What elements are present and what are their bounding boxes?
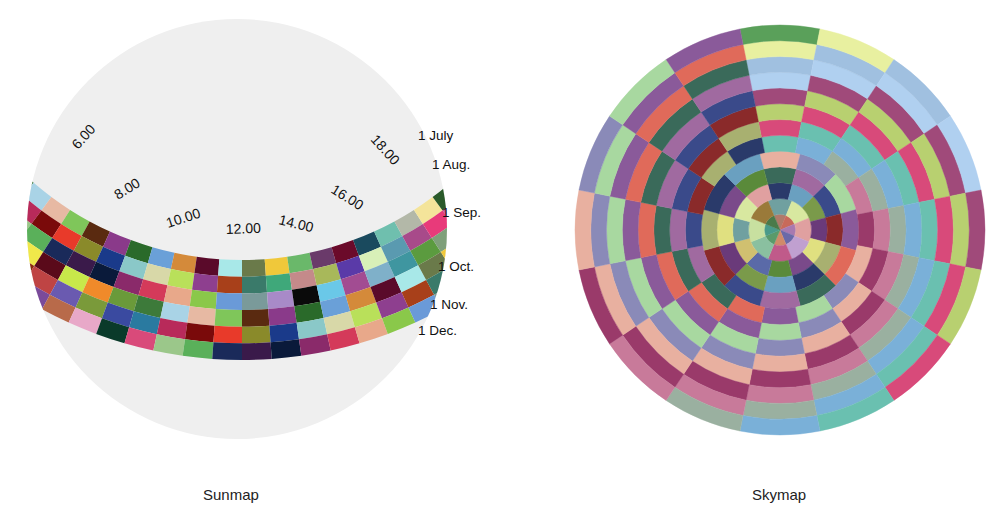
skymap-cell: [755, 338, 804, 356]
skymap-cell: [762, 307, 799, 324]
skymap-cell: [717, 214, 734, 247]
skymap-cell: [755, 104, 804, 122]
sunmap-panel: 6.008.0010.0012.0014.0016.0018.00 1 July…: [0, 0, 500, 517]
sunmap-cell: [0, 246, 2, 277]
sunmap-cell: [1, 208, 31, 237]
sunmap-cell: [242, 326, 271, 344]
sunmap-cell: [218, 259, 242, 276]
skymap-cell: [622, 199, 640, 261]
skymap-cell: [638, 202, 656, 257]
sunmap-cell: [267, 290, 294, 309]
skymap-cell: [764, 167, 797, 184]
sunmap-cell: [266, 273, 292, 292]
skymap-cell: [654, 205, 672, 254]
sunmap-diagram: 6.008.0010.0012.0014.0016.0018.00: [0, 0, 500, 517]
sunmap-cell: [192, 273, 218, 292]
sunmap-cell: [212, 342, 242, 360]
skymap-cell: [762, 135, 799, 152]
sunmap-cell: [483, 203, 500, 233]
month-label: 1 Nov.: [430, 297, 468, 312]
sunmap-cell: [242, 342, 272, 360]
skymap-cell: [768, 183, 792, 200]
skymap-cell: [752, 354, 807, 372]
sunmap-cell: [242, 276, 267, 294]
skymap-cell: [810, 218, 827, 242]
skymap-cell: [670, 208, 688, 251]
sunmap-cell: [190, 290, 217, 309]
sunmap-cell: [472, 233, 500, 263]
skymap-cell: [760, 151, 801, 169]
skymap-cell: [768, 260, 792, 277]
hour-label: 12.00: [226, 220, 262, 237]
sunmap-cell: [0, 179, 23, 208]
sunmap-caption: Sunmap: [203, 486, 259, 503]
skymap-cell: [888, 205, 906, 254]
skymap-cell: [760, 291, 801, 309]
sunmap-cell: [242, 259, 266, 276]
skymap-cell: [752, 88, 807, 106]
sunmap-cell: [494, 215, 500, 246]
month-label: 1 Dec.: [418, 323, 457, 338]
skymap-cell: [904, 202, 922, 257]
skymap-cell: [857, 212, 874, 249]
sunmap-cell: [482, 246, 500, 277]
skymap-cell: [733, 218, 750, 242]
skymap-cell: [764, 276, 797, 293]
skymap-caption: Skymap: [752, 486, 806, 503]
sunmap-cell: [0, 233, 12, 263]
skymap-cell: [873, 208, 891, 251]
sunmap-cell: [0, 203, 1, 233]
sunmap-cell: [187, 306, 215, 325]
sunmap-cell: [183, 339, 214, 359]
skymap-panel: Skymap: [540, 0, 990, 517]
sunmap-cell: [462, 221, 493, 251]
sunmap-cell: [217, 276, 242, 294]
sunmap-cell: [242, 292, 268, 310]
sunmap-cell: [215, 309, 242, 327]
skymap-cell: [758, 323, 801, 341]
skymap-cell: [685, 212, 702, 249]
sunmap-cell: [5, 167, 33, 195]
sunmap-cell: [0, 264, 25, 294]
sunmap-cell: [0, 191, 12, 221]
skymap-cell: [749, 369, 811, 387]
sunmap-cell: [242, 309, 269, 327]
skymap-diagram: [540, 0, 990, 517]
sunmap-cell: [461, 179, 490, 208]
sunmap-cell: [194, 257, 219, 276]
month-label: 1 July: [418, 128, 453, 143]
skymap-cell: [758, 120, 801, 138]
sunmap-cell: [265, 257, 290, 276]
skymap-cell: [826, 214, 843, 247]
month-label: 1 Oct.: [438, 259, 474, 274]
skymap-cell: [841, 210, 859, 251]
sunmap-cell: [271, 339, 302, 359]
skymap-cell: [919, 199, 937, 261]
sunmap-cell: [216, 292, 242, 310]
sunmap-cell: [0, 221, 22, 251]
skymap-cell: [749, 72, 811, 90]
sunmap-cell: [268, 306, 296, 325]
skymap-cell: [701, 210, 719, 251]
sunmap-cell: [213, 326, 242, 344]
month-label: 1 Aug.: [432, 157, 470, 172]
sunmap-cell: [269, 323, 299, 343]
sunmap-cell: [185, 323, 215, 343]
month-label: 1 Sep.: [442, 205, 481, 220]
